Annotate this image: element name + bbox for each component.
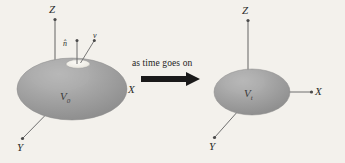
left-axis-label-x: X bbox=[128, 84, 135, 95]
transition-caption: as time goes on bbox=[132, 58, 192, 68]
right-axis-label-z: Z bbox=[242, 5, 248, 16]
volume-label-later-base: V bbox=[244, 87, 251, 99]
volume-label-initial-sub: 0 bbox=[67, 97, 71, 105]
volume-label-later-sub: t bbox=[251, 94, 253, 102]
figure-canvas: Z X Y n̂ v⃗ V0 as time goes on Z X Y Vt bbox=[0, 0, 345, 163]
figure-vector-layer bbox=[0, 0, 345, 163]
surface-patch bbox=[66, 60, 90, 69]
right-axis-label-y: Y bbox=[209, 141, 215, 152]
right-axis-label-x: X bbox=[315, 86, 322, 97]
volume-label-later: Vt bbox=[244, 88, 253, 102]
volume-label-initial: V0 bbox=[60, 91, 70, 105]
volume-label-initial-base: V bbox=[60, 90, 67, 102]
velocity-vector-label: v⃗ bbox=[93, 32, 103, 40]
left-axis-label-z: Z bbox=[49, 4, 55, 15]
time-progress-arrow-icon bbox=[141, 72, 200, 86]
normal-vector-label: n̂ bbox=[63, 40, 67, 48]
left-axis-label-y: Y bbox=[17, 142, 23, 153]
